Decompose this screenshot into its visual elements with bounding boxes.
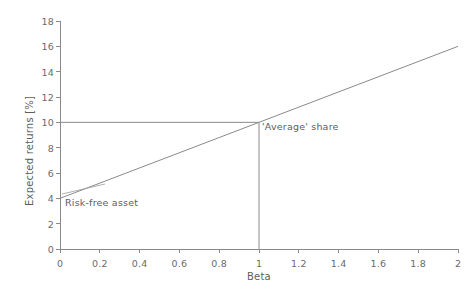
y-axis-ticks [56,21,60,249]
x-axis-tick-label: 0.6 [172,258,188,269]
x-axis-tick-label: 1.2 [291,258,307,269]
risk-free-leader-line [62,184,105,194]
chart-plot-area [0,0,475,293]
annotation-average-share: 'Average' share [262,121,339,132]
annotation-risk-free-asset: Risk-free asset [65,197,138,208]
x-axis-tick-label: 2 [455,258,461,269]
x-axis-title: Beta [247,271,271,282]
x-axis-tick-label: 0.8 [211,258,227,269]
x-axis-tick-label: 0 [57,258,63,269]
y-axis-tick-label: 0 [28,244,54,255]
x-axis-tick-label: 0.2 [92,258,108,269]
x-axis-tick-label: 1.8 [410,258,426,269]
annotation-leader-lines [62,184,105,194]
x-axis-tick-label: 1 [256,258,262,269]
y-axis-tick-label: 16 [28,41,54,52]
x-axis-tick-label: 1.4 [331,258,347,269]
y-axis-tick-label: 2 [28,218,54,229]
y-axis-tick-label: 14 [28,66,54,77]
x-axis-tick-label: 0.4 [132,258,148,269]
x-axis-tick-label: 1.6 [371,258,387,269]
y-axis-tick-label: 18 [28,16,54,27]
data-series [60,46,458,249]
x-axis-ticks [60,249,458,253]
chart-container: 024681012141618 00.20.40.60.811.21.41.61… [0,0,475,293]
y-axis-title: Expected returns [%] [24,96,35,206]
